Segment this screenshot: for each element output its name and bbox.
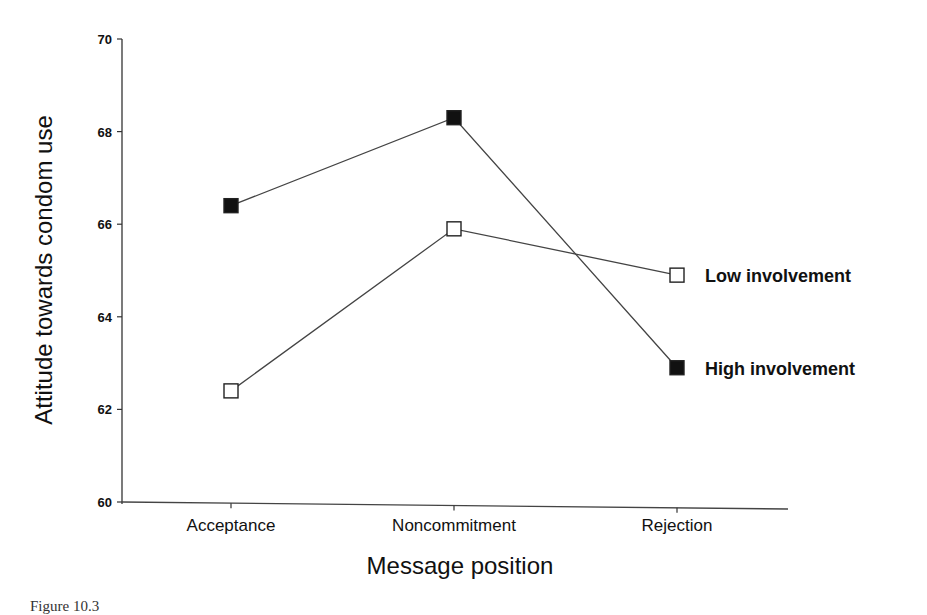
open-square-marker [670, 268, 684, 282]
x-tick-label: Rejection [642, 516, 713, 535]
y-axis: 606264666870 [98, 32, 122, 510]
y-tick-label: 66 [98, 217, 112, 232]
series-line-high [231, 118, 677, 368]
x-axis: AcceptanceNoncommitmentRejection [122, 502, 788, 535]
y-tick-label: 68 [98, 125, 112, 140]
y-tick-label: 64 [98, 310, 113, 325]
open-square-marker [224, 384, 238, 398]
filled-square-marker [670, 361, 684, 375]
figure-caption: Figure 10.3 [30, 598, 99, 615]
series-lines [224, 111, 684, 398]
y-tick-label: 70 [98, 32, 112, 47]
legend-label-low: Low involvement [705, 266, 851, 286]
x-axis-line [122, 502, 788, 509]
x-tick-label: Acceptance [187, 516, 276, 535]
y-tick-label: 62 [98, 402, 112, 417]
filled-square-marker [447, 111, 461, 125]
y-axis-title: Attitude towards condom use [30, 115, 57, 425]
y-tick-label: 60 [98, 495, 112, 510]
x-axis-title: Message position [367, 552, 554, 579]
series-line-low [231, 229, 677, 391]
legend: Low involvementHigh involvement [705, 266, 855, 379]
legend-label-high: High involvement [705, 359, 855, 379]
filled-square-marker [224, 199, 238, 213]
x-tick-label: Noncommitment [392, 516, 516, 535]
open-square-marker [447, 222, 461, 236]
